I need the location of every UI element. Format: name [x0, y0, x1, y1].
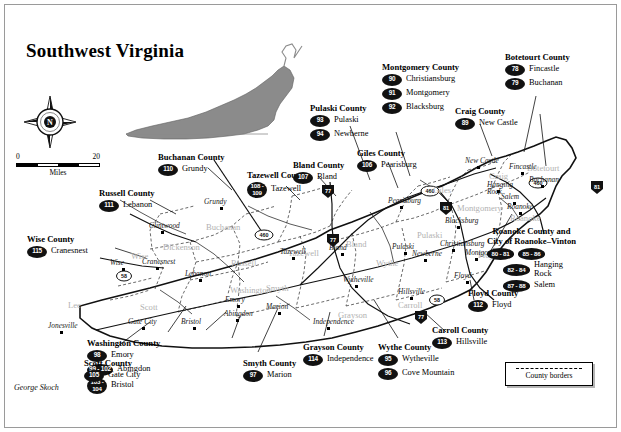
site-number-badge[interactable]: 79 — [505, 78, 525, 90]
site-place-label: New Castle — [479, 119, 518, 128]
county-site-entry[interactable]: 112Floyd — [468, 299, 518, 312]
county-site-entry[interactable]: 91Montgomery — [382, 87, 459, 100]
county-site-entry[interactable]: 115Cranesnest — [27, 245, 88, 258]
site-number-badge[interactable]: 78 — [505, 64, 525, 76]
interior-county-label: Wythe — [376, 258, 398, 268]
county-site-entry[interactable]: 89New Castle — [455, 117, 518, 130]
site-number-badge[interactable]: 95 — [378, 354, 398, 366]
site-number-badge[interactable]: 108 - 109 — [247, 182, 267, 198]
scale-bar: 0 20 Miles — [16, 152, 100, 177]
county-callout-title: Carroll County — [432, 325, 488, 335]
site-number-badge[interactable]: 111 — [99, 200, 119, 212]
town-dot — [220, 207, 223, 210]
county-callout: Wise County115Cranesnest — [27, 234, 88, 258]
town-dot — [457, 226, 460, 229]
svg-text:77: 77 — [325, 188, 331, 194]
site-number-badge[interactable]: 93 — [310, 115, 330, 127]
town-label: Clintwood — [149, 222, 180, 229]
site-number-badge[interactable]: 85 - 86 — [518, 248, 545, 260]
site-number-badge[interactable]: 112 — [468, 300, 488, 312]
county-callout-title: Craig County — [455, 106, 518, 116]
town-label: Jonesville — [48, 322, 78, 329]
interior-county-label: Russell — [231, 258, 256, 268]
site-number-badge[interactable]: 90 — [382, 74, 402, 86]
site-number-badge[interactable]: 115 — [27, 246, 47, 258]
interior-county-label: Giles — [433, 185, 451, 195]
town-dot — [199, 279, 202, 282]
county-site-entry[interactable]: 114Independence — [303, 353, 374, 366]
svg-text:N: N — [47, 118, 53, 127]
svg-text:81: 81 — [594, 184, 600, 190]
town-dot — [122, 268, 125, 271]
county-site-entry[interactable]: 78Fincastle — [505, 63, 570, 76]
county-site-entry[interactable]: 82 - 84Hanging Rock — [503, 261, 576, 278]
site-place-label: Wytheville — [402, 355, 439, 364]
county-callout: Montgomery County90Christiansburg91Montg… — [382, 62, 459, 114]
county-callout-title: Roanoke County and City of Roanoke–Vinto… — [487, 227, 576, 246]
site-number-badge[interactable]: 87 - 88 — [503, 280, 530, 292]
site-number-badge[interactable]: 92 — [382, 102, 402, 114]
county-site-entry[interactable]: 87 - 88Salem — [503, 279, 576, 292]
town-dot — [327, 327, 330, 330]
site-place-label: Cranesnest — [51, 247, 88, 256]
county-site-entry[interactable]: 90Christiansburg — [382, 73, 459, 86]
town-label: New Castle — [465, 157, 499, 164]
page-title: Southwest Virginia — [26, 40, 184, 62]
town-label: Hillsville — [398, 288, 425, 295]
town-dot — [292, 257, 295, 260]
town-label: Pulaski — [392, 243, 414, 250]
county-site-entry[interactable]: 93Pulaski — [310, 114, 368, 127]
site-number-badge[interactable]: 110 — [158, 164, 178, 176]
site-place-label: Grundy — [182, 165, 208, 174]
legend-box: County borders — [505, 362, 593, 386]
county-site-entry[interactable]: 95Wytheville — [378, 353, 454, 366]
interior-county-label: Washington — [230, 285, 271, 295]
interior-county-label: Carroll — [398, 300, 422, 310]
county-callout-title: Montgomery County — [382, 62, 459, 72]
site-number-badge[interactable]: 94 — [310, 129, 330, 141]
county-site-entry[interactable]: 79Buchanan — [505, 77, 570, 90]
county-site-entry[interactable]: 94Newberne — [310, 128, 368, 141]
town-dot — [156, 267, 159, 270]
county-callout-title: Giles County — [357, 148, 417, 158]
site-number-badge[interactable]: 105 — [84, 370, 104, 382]
county-site-entry[interactable]: 111Lebanon — [99, 199, 155, 212]
site-number-badge[interactable]: 89 — [455, 118, 475, 130]
site-place-label: Salem — [534, 281, 555, 290]
town-dot — [410, 297, 413, 300]
town-dot — [236, 319, 239, 322]
site-number-badge[interactable]: 106 — [357, 160, 377, 172]
site-place-label: Montgomery — [406, 89, 450, 98]
county-callout: Smyth County97Marion — [243, 358, 296, 382]
town-dot — [237, 305, 240, 308]
county-site-entry[interactable]: 96Cove Mountain — [378, 367, 454, 380]
town-label: Cranesnest — [142, 258, 175, 265]
site-place-label: Bland — [317, 173, 337, 182]
town-dot — [452, 249, 455, 252]
site-number-badge[interactable]: 91 — [382, 88, 402, 100]
county-site-entry[interactable]: 97Marion — [243, 369, 296, 382]
town-label: Floyd — [454, 272, 471, 279]
county-site-entry[interactable]: 92Blacksburg — [382, 101, 459, 114]
county-callout-title: Buchanan County — [158, 152, 225, 162]
site-number-badge[interactable]: 97 — [243, 370, 263, 382]
svg-text:58: 58 — [434, 297, 440, 303]
site-place-label: Buchanan — [529, 79, 563, 88]
interior-county-label: Bland — [346, 239, 367, 249]
site-number-badge[interactable]: 114 — [303, 354, 323, 366]
county-site-entry[interactable]: 105Gate City — [84, 369, 140, 382]
scale-min: 0 — [16, 152, 20, 161]
county-site-entry[interactable]: 107Bland — [293, 171, 344, 184]
site-number-badge[interactable]: 96 — [378, 368, 398, 380]
town-label: Fincastle — [509, 163, 537, 170]
town-dot — [355, 285, 358, 288]
county-site-entry[interactable]: 80 - 8185 - 86 — [487, 247, 576, 260]
site-number-badge[interactable]: 80 - 81 — [487, 248, 514, 260]
site-number-badge[interactable]: 82 - 84 — [503, 264, 530, 276]
county-site-entry[interactable]: 110Grundy — [158, 163, 225, 176]
site-number-badge[interactable]: 107 — [293, 172, 313, 184]
interior-county-label: Lee — [68, 300, 81, 310]
town-dot — [404, 252, 407, 255]
town-dot — [278, 312, 281, 315]
county-site-entry[interactable]: 106Pearisburg — [357, 159, 417, 172]
